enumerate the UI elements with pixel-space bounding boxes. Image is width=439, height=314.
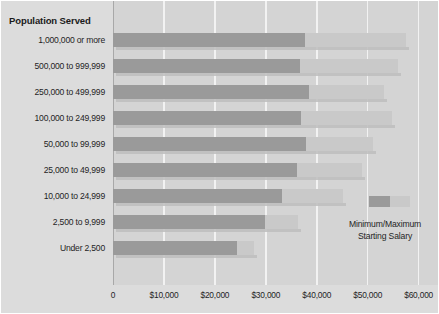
x-tick-label: $30,000 (251, 290, 280, 300)
x-tick-label: $40,000 (302, 290, 331, 300)
bar-minimum-salary (113, 59, 300, 73)
category-label: 2,500 to 9,999 (53, 217, 105, 227)
bar-row (113, 33, 439, 47)
x-tick-label: $50,000 (353, 290, 382, 300)
bar-shadow (116, 229, 301, 232)
bar-minimum-salary (113, 111, 301, 125)
category-label: 500,000 to 999,999 (35, 61, 105, 71)
bar-shadow (116, 151, 376, 154)
legend-label-line-2: Starting Salary (333, 231, 437, 241)
bar-minimum-salary (113, 215, 265, 229)
category-label-panel: Population Served 1,000,000 or more500,0… (0, 0, 113, 314)
bar-shadow (116, 203, 346, 206)
chart-title: Population Served (9, 15, 91, 26)
x-axis: 0$10,000$20,000$30,000$40,000$50,000$60,… (0, 285, 439, 314)
bar-minimum-salary (113, 189, 282, 203)
chart-container: Population Served 1,000,000 or more500,0… (0, 0, 439, 314)
bar-minimum-salary (113, 137, 306, 151)
category-label: 1,000,000 or more (38, 35, 105, 45)
bar-row (113, 111, 439, 125)
bar-minimum-salary (113, 241, 237, 255)
bar-row (113, 85, 439, 99)
category-label: 10,000 to 24,999 (44, 191, 105, 201)
bar-row (113, 163, 439, 177)
category-label: 250,000 to 499,999 (35, 87, 105, 97)
bar-minimum-salary (113, 85, 309, 99)
bar-shadow (116, 177, 365, 180)
category-label: 25,000 to 49,999 (44, 165, 105, 175)
bar-shadow (116, 47, 409, 50)
bar-shadow (116, 73, 401, 76)
bar-shadow (116, 125, 395, 128)
bar-minimum-salary (113, 33, 305, 47)
x-tick-label: 0 (111, 290, 115, 300)
bar-shadow (116, 255, 257, 258)
category-label: 50,000 to 99,999 (44, 139, 105, 149)
legend-swatch-maximum (390, 196, 410, 207)
plot-area (113, 0, 439, 285)
bar-row (113, 137, 439, 151)
x-tick-label: $10,000 (150, 290, 179, 300)
bar-row (113, 59, 439, 73)
bar-shadow (116, 99, 387, 102)
bar-row (113, 241, 439, 255)
legend-label-line-1: Minimum/Maximum (333, 219, 437, 229)
category-label: Under 2,500 (60, 243, 105, 253)
bar-minimum-salary (113, 163, 297, 177)
x-tick-label: $60,000 (404, 290, 433, 300)
x-tick-label: $20,000 (200, 290, 229, 300)
category-label: 100,000 to 249,999 (35, 113, 105, 123)
